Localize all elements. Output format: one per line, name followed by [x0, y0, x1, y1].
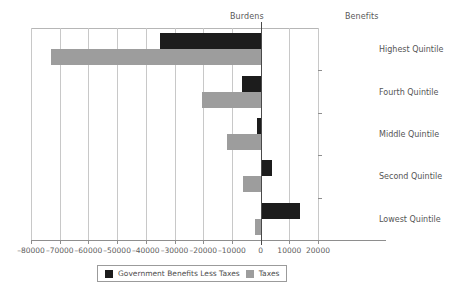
bar-fourth-quintile-taxes — [202, 92, 261, 108]
category-label-highest-quintile: Highest Quintile — [379, 45, 443, 54]
x-tick — [146, 240, 147, 244]
legend-item-1[interactable]: Government Benefits Less Taxes — [105, 269, 240, 278]
legend-swatch-icon — [246, 270, 254, 278]
x-tick-label: –50000 — [103, 246, 131, 255]
x-tick — [31, 240, 32, 244]
bar-lowest-quintile-benefits-less-taxes — [261, 203, 301, 219]
legend-label: Government Benefits Less Taxes — [118, 269, 240, 278]
x-tick — [60, 240, 61, 244]
x-tick-label: 20000 — [306, 246, 330, 255]
bar-second-quintile-benefits-less-taxes — [261, 160, 273, 176]
x-tick-label: –20000 — [189, 246, 217, 255]
y-tick — [318, 70, 322, 71]
bar-highest-quintile-benefits-less-taxes — [160, 33, 260, 49]
zero-axis-line — [261, 22, 262, 245]
x-tick — [203, 240, 204, 244]
x-tick-label: –40000 — [132, 246, 160, 255]
x-tick-label: –30000 — [161, 246, 189, 255]
x-tick — [88, 240, 89, 244]
y-tick — [318, 198, 322, 199]
gridline — [318, 28, 319, 240]
bar-second-quintile-taxes — [243, 176, 260, 192]
x-tick — [261, 236, 262, 242]
legend-label: Taxes — [259, 269, 280, 278]
x-tick-label: 0 — [258, 246, 263, 255]
category-label-second-quintile: Second Quintile — [379, 172, 442, 181]
legend-item-2[interactable]: Taxes — [246, 269, 280, 278]
bar-middle-quintile-taxes — [227, 134, 261, 150]
chart-legend: Government Benefits Less TaxesTaxes — [97, 265, 287, 282]
x-tick-label: –10000 — [218, 246, 246, 255]
bar-fourth-quintile-benefits-less-taxes — [242, 76, 261, 92]
x-tick-label: –70000 — [46, 246, 74, 255]
category-label-fourth-quintile: Fourth Quintile — [379, 87, 438, 96]
x-tick — [289, 240, 290, 244]
y-tick — [318, 155, 322, 156]
plot-area — [31, 28, 318, 240]
category-label-middle-quintile: Middle Quintile — [379, 130, 439, 139]
x-tick — [175, 240, 176, 244]
bar-highest-quintile-taxes — [51, 49, 261, 65]
chart-container: Burdens Benefits –80000–70000–60000–5000… — [0, 0, 457, 300]
x-tick-label: 10000 — [277, 246, 301, 255]
legend-swatch-icon — [105, 270, 113, 278]
x-axis-line — [31, 240, 386, 241]
category-label-lowest-quintile: Lowest Quintile — [379, 214, 441, 223]
x-tick — [318, 240, 319, 244]
x-tick-label: –80000 — [17, 246, 45, 255]
x-tick — [232, 240, 233, 244]
gridline — [31, 28, 32, 240]
benefits-region-label: Benefits — [345, 12, 379, 21]
x-tick — [117, 240, 118, 244]
y-tick — [318, 113, 322, 114]
burdens-region-label: Burdens — [230, 12, 264, 21]
x-tick-label: –60000 — [75, 246, 103, 255]
